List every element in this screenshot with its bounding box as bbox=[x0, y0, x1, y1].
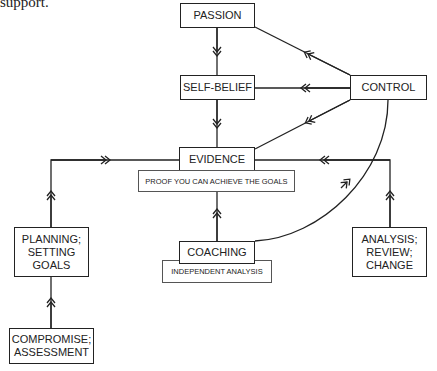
node-control: CONTROL bbox=[350, 75, 427, 100]
node-evidence-note: PROOF YOU CAN ACHIEVE THE GOALS bbox=[138, 170, 295, 192]
node-evidence: EVIDENCE bbox=[179, 147, 255, 172]
node-analysis: ANALYSIS; REVIEW; CHANGE bbox=[352, 227, 427, 277]
node-coaching: COACHING bbox=[179, 241, 255, 264]
node-planning: PLANNING; SETTING GOALS bbox=[14, 227, 89, 277]
node-passion: PASSION bbox=[180, 3, 255, 28]
node-compromise: COMPROMISE; ASSESSMENT bbox=[9, 328, 94, 364]
node-self-belief: SELF-BELIEF bbox=[180, 75, 255, 100]
